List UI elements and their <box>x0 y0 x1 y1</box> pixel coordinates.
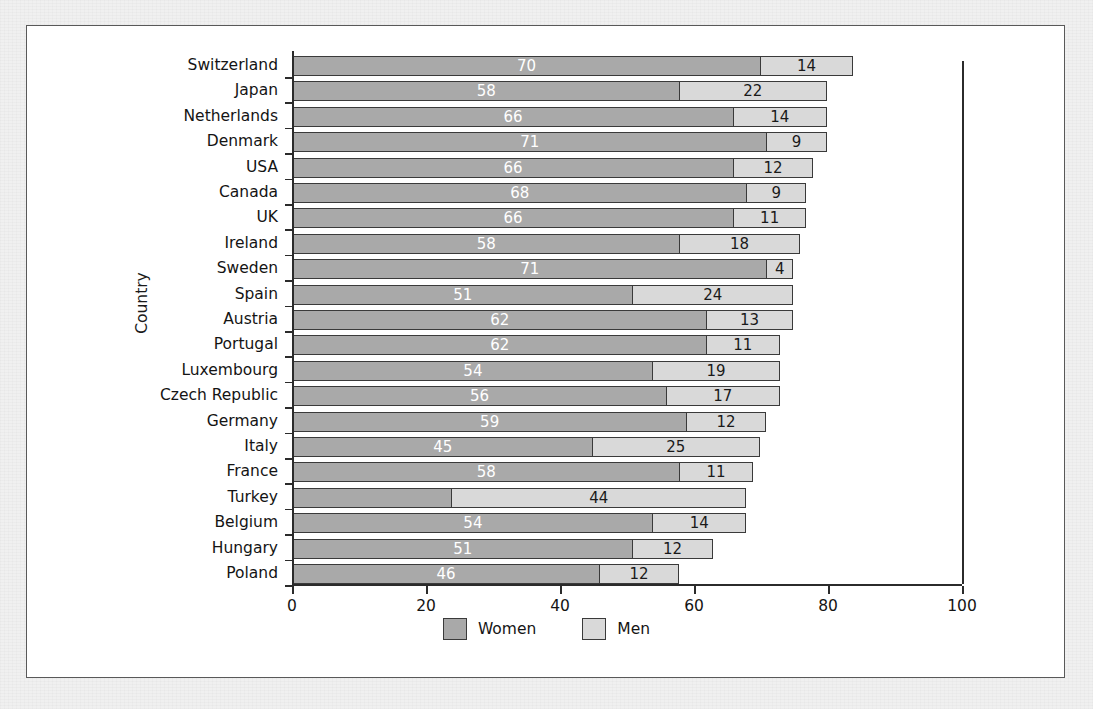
x-axis-tick-label: 40 <box>550 597 570 615</box>
bar-segment-women: 71 <box>292 259 768 279</box>
bar-segment-men: 12 <box>599 564 679 584</box>
bar-value-women: 62 <box>490 313 509 328</box>
bar-segment-women: 71 <box>292 132 768 152</box>
bar-segment-men: 14 <box>652 513 746 533</box>
x-axis-tick <box>962 586 964 594</box>
bar-segment-women: 70 <box>292 56 761 76</box>
bar-segment-men: 17 <box>666 386 780 406</box>
bar-segment-men: 24 <box>632 285 793 305</box>
stacked-bar-chart: Country 70145822661471966126896611581871… <box>27 26 1066 679</box>
bar-segment-women: 66 <box>292 208 734 228</box>
bar-value-men: 4 <box>775 262 785 277</box>
bar-value-men: 24 <box>703 287 722 302</box>
bar-value-men: 11 <box>760 211 779 226</box>
y-axis-tick <box>285 458 292 460</box>
bar-value-women: 62 <box>490 338 509 353</box>
bar-value-men: 25 <box>666 440 685 455</box>
category-label-denmark: Denmark <box>207 134 278 150</box>
category-label-turkey: Turkey <box>228 490 278 506</box>
y-axis-tick <box>285 229 292 231</box>
legend-swatch-men <box>582 618 606 640</box>
category-label-netherlands: Netherlands <box>184 109 278 125</box>
bar-segment-men: 11 <box>679 462 753 482</box>
bar-segment-men: 12 <box>686 412 766 432</box>
bar-segment-women: 62 <box>292 310 707 330</box>
bar-segment-women: 58 <box>292 462 681 482</box>
category-label-japan: Japan <box>235 83 278 99</box>
category-label-switzerland: Switzerland <box>188 58 278 74</box>
bar-segment-women <box>292 488 453 508</box>
y-axis-tick <box>285 331 292 333</box>
bar-value-women: 59 <box>480 414 499 429</box>
x-axis-spine <box>292 584 962 586</box>
bar-value-men: 14 <box>770 109 789 124</box>
bar-segment-men: 44 <box>451 488 746 508</box>
y-axis-tick <box>285 382 292 384</box>
y-axis-title: Country <box>133 268 151 338</box>
x-axis-tick-label: 100 <box>947 597 977 615</box>
category-label-luxembourg: Luxembourg <box>181 363 278 379</box>
bar-value-women: 58 <box>477 84 496 99</box>
figure-frame: Country 70145822661471966126896611581871… <box>26 25 1065 678</box>
bar-segment-women: 56 <box>292 386 667 406</box>
category-label-czech-republic: Czech Republic <box>160 388 278 404</box>
bar-value-men: 11 <box>706 465 725 480</box>
bar-value-men: 17 <box>713 389 732 404</box>
category-label-sweden: Sweden <box>217 261 278 277</box>
y-axis-tick <box>285 280 292 282</box>
bar-segment-men: 9 <box>746 183 806 203</box>
y-axis-tick <box>285 204 292 206</box>
legend-label-men: Men <box>617 620 650 638</box>
y-axis-spine <box>292 51 294 584</box>
bar-value-men: 12 <box>717 414 736 429</box>
plot-right-spine <box>962 61 964 584</box>
chart-legend: WomenMen <box>27 618 1066 640</box>
x-axis-tick-label: 0 <box>287 597 297 615</box>
y-axis-tick <box>285 356 292 358</box>
bar-segment-men: 11 <box>706 335 780 355</box>
bar-value-women: 46 <box>437 567 456 582</box>
bar-segment-men: 13 <box>706 310 793 330</box>
bar-value-women: 66 <box>504 211 523 226</box>
bar-value-men: 12 <box>763 160 782 175</box>
bar-segment-men: 22 <box>679 81 826 101</box>
bar-value-women: 58 <box>477 236 496 251</box>
legend-label-women: Women <box>478 620 536 638</box>
bar-segment-men: 14 <box>733 107 827 127</box>
bar-segment-women: 51 <box>292 285 634 305</box>
bar-value-men: 13 <box>740 313 759 328</box>
x-axis-tick <box>292 586 294 594</box>
y-axis-tick <box>285 179 292 181</box>
y-axis-tick <box>285 509 292 511</box>
bar-value-men: 44 <box>589 490 608 505</box>
bar-segment-men: 12 <box>733 158 813 178</box>
category-label-spain: Spain <box>235 287 278 303</box>
y-axis-tick <box>285 102 292 104</box>
bar-segment-men: 25 <box>592 437 760 457</box>
bar-segment-women: 46 <box>292 564 600 584</box>
bar-value-women: 66 <box>504 160 523 175</box>
bar-value-women: 66 <box>504 109 523 124</box>
bar-value-women: 70 <box>517 59 536 74</box>
bar-segment-women: 58 <box>292 234 681 254</box>
bar-value-men: 14 <box>690 516 709 531</box>
bar-value-women: 45 <box>433 440 452 455</box>
y-axis-tick <box>285 407 292 409</box>
bar-segment-women: 66 <box>292 158 734 178</box>
bar-value-men: 18 <box>730 236 749 251</box>
bar-segment-women: 62 <box>292 335 707 355</box>
category-label-portugal: Portugal <box>214 337 278 353</box>
category-label-hungary: Hungary <box>212 541 278 557</box>
category-label-poland: Poland <box>226 566 278 582</box>
bar-value-men: 22 <box>743 84 762 99</box>
bar-value-women: 51 <box>453 287 472 302</box>
x-axis-tick-label: 80 <box>818 597 838 615</box>
y-axis-tick <box>285 483 292 485</box>
y-axis-tick <box>285 560 292 562</box>
x-axis-tick-label: 60 <box>684 597 704 615</box>
bar-segment-men: 4 <box>766 259 793 279</box>
category-label-belgium: Belgium <box>214 515 278 531</box>
bar-value-women: 68 <box>510 186 529 201</box>
bar-value-women: 58 <box>477 465 496 480</box>
x-axis-tick <box>426 586 428 594</box>
